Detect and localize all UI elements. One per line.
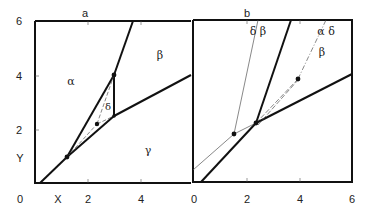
metastable-point — [95, 122, 99, 126]
phase-delta-label: δ — [105, 101, 111, 112]
invariant-point — [112, 114, 116, 118]
y-tick-2: 2 — [16, 124, 22, 136]
boundary-line — [201, 123, 256, 182]
invariant-point — [254, 121, 259, 126]
phase-beta-label: β — [157, 49, 163, 62]
x-tick-4: 4 — [138, 193, 144, 205]
boundary-beta-gamma — [114, 75, 191, 116]
x-axis-label: X — [54, 193, 62, 205]
panel-a-label: a — [82, 7, 89, 19]
dashed-boundary — [256, 79, 298, 123]
invariant-point — [232, 132, 237, 137]
panel-b: b 0 2 4 6 δ β α δ β — [191, 7, 355, 205]
invariant-point — [65, 155, 70, 160]
boundary-delta-gamma — [67, 116, 114, 157]
x-tick-0: 0 — [17, 193, 23, 205]
metastable-point — [296, 77, 301, 82]
phase-alpha-label: α — [67, 75, 75, 88]
x-tick-6: 6 — [349, 193, 355, 205]
y-tick-6: 6 — [16, 15, 22, 27]
phase-beta-label: β — [319, 46, 325, 59]
x-tick-2: 2 — [244, 193, 250, 205]
phase-diagram-figure: a 6 4 2 Y 0 X 2 4 α β γ δ — [0, 0, 372, 219]
panel-a: a 6 4 2 Y 0 X 2 4 α β γ δ — [16, 7, 191, 205]
phase-delta-beta-label: δ β — [250, 25, 266, 38]
x-tick-4: 4 — [297, 193, 303, 205]
phase-gamma-label: γ — [145, 144, 152, 157]
panel-b-frame — [193, 20, 352, 182]
phase-alpha-delta-label: α δ — [317, 25, 335, 38]
invariant-point — [112, 73, 117, 78]
boundary-alpha-beta — [114, 21, 133, 75]
panel-b-label: b — [244, 7, 250, 19]
x-tick-0: 0 — [191, 193, 197, 205]
y-tick-4: 4 — [16, 70, 22, 82]
thin-boundary — [234, 123, 256, 134]
y-axis-label: Y — [16, 152, 24, 164]
boundary-line — [40, 157, 67, 183]
x-tick-2: 2 — [85, 193, 91, 205]
